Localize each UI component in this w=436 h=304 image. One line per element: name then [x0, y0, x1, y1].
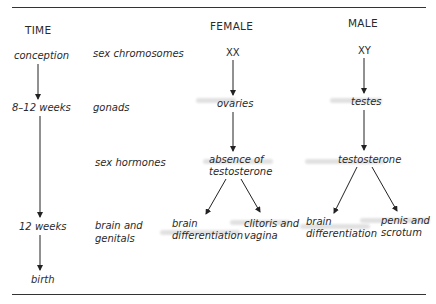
- arrow-absence-to-clitoris: [241, 179, 260, 212]
- arrow-testosterone-to-penis: [372, 167, 397, 211]
- arrow-testosterone-to-brain: [334, 167, 357, 213]
- flow-arrows: [0, 0, 436, 304]
- arrow-absence-to-brain: [206, 179, 226, 214]
